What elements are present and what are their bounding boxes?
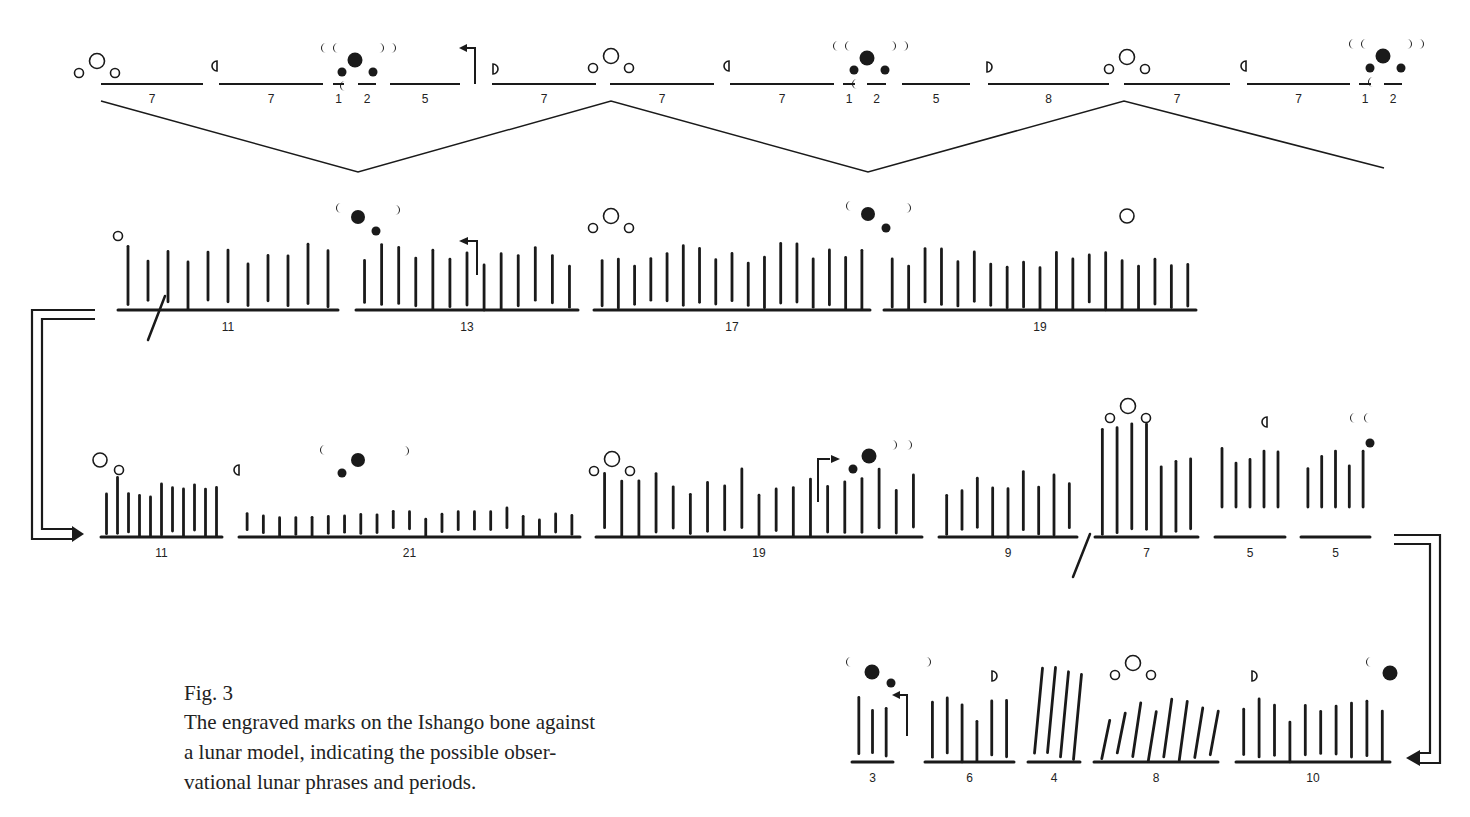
new-moon-icon (1383, 666, 1398, 681)
crescent-moon-icon (391, 43, 396, 53)
new-moon-icon (351, 210, 365, 224)
quarter-moon-icon (992, 671, 997, 681)
lunar-segment-label: 2 (873, 92, 880, 106)
crescent-moon-icon (1366, 657, 1371, 667)
bone-group-label: 10 (1306, 771, 1320, 785)
crescent-moon-icon (845, 41, 850, 51)
bone-group-label: 5 (1332, 546, 1339, 560)
crescent-moon-icon (1350, 413, 1355, 423)
lunar-segment-label: 1 (335, 92, 342, 106)
lunar-segment-label: 7 (1174, 92, 1181, 106)
crescent-moon-icon (320, 445, 325, 455)
crescent-moon-icon (1349, 39, 1354, 49)
dark-moon-icon (1397, 64, 1406, 73)
tally-mark (1048, 668, 1056, 753)
crescent-moon-icon (1361, 39, 1366, 49)
full-moon-icon (1106, 414, 1115, 423)
dark-moon-icon (372, 227, 381, 236)
dark-moon-icon (887, 679, 896, 688)
crescent-moon-icon (891, 41, 896, 51)
new-moon-icon (348, 53, 363, 68)
quarter-moon-icon (493, 64, 498, 74)
quarter-moon-icon (1252, 671, 1257, 681)
bone-group-label: 4 (1051, 771, 1058, 785)
crescent-moon-icon (379, 43, 384, 53)
quarter-moon-icon (1241, 61, 1246, 71)
crescent-moon-icon (333, 43, 338, 53)
tally-mark (1210, 711, 1218, 755)
crescent-moon-icon (907, 440, 912, 450)
crescent-moon-icon (321, 43, 326, 53)
figure-label: Fig. 3 (184, 680, 714, 707)
direction-arrow-icon (900, 695, 907, 736)
tally-mark (1179, 701, 1187, 760)
dark-moon-icon (1366, 439, 1375, 448)
full-moon-icon (626, 467, 635, 476)
tally-mark (1102, 720, 1110, 758)
lunar-segment-label: 8 (1045, 92, 1052, 106)
direction-arrow-icon (468, 241, 477, 275)
full-moon-icon (625, 224, 634, 233)
full-moon-icon (1141, 65, 1150, 74)
quarter-moon-icon (234, 465, 239, 475)
arrowhead-icon (831, 455, 840, 463)
arrowhead-icon (892, 691, 900, 699)
lunar-model-row: 7712577712587712 (75, 39, 1425, 172)
caption-line-3: vational lunar phrases and periods. (184, 767, 714, 797)
caption-line-2: a lunar model, indicating the possible o… (184, 737, 714, 767)
crescent-moon-icon (906, 203, 911, 213)
lunar-segment-label: 7 (659, 92, 666, 106)
full-moon-icon (114, 232, 123, 241)
break-mark (148, 296, 165, 340)
lunar-segment-label: 5 (933, 92, 940, 106)
zigzag-line (101, 101, 1384, 172)
arrowhead-icon (72, 526, 84, 542)
quarter-moon-icon (987, 62, 992, 72)
full-moon-icon (93, 453, 107, 467)
arrowhead-icon (1406, 750, 1420, 766)
tally-mark (1035, 668, 1043, 753)
new-moon-icon (861, 207, 875, 221)
full-moon-icon (1126, 656, 1141, 671)
lunar-segment-label: 2 (364, 92, 371, 106)
full-moon-icon (115, 466, 124, 475)
crescent-moon-icon (892, 440, 897, 450)
bone-group-label: 8 (1153, 771, 1160, 785)
dark-moon-icon (882, 224, 891, 233)
arrowhead-icon (459, 44, 467, 52)
new-moon-icon (865, 665, 880, 680)
tally-mark (1195, 708, 1203, 757)
crescent-moon-icon (1407, 39, 1412, 49)
tally-mark (1117, 713, 1125, 753)
dark-moon-icon (369, 68, 378, 77)
lunar-segment-label: 2 (1390, 92, 1397, 106)
full-moon-icon (590, 467, 599, 476)
tally-mark (1074, 674, 1082, 759)
quarter-moon-icon (1262, 417, 1267, 427)
crescent-moon-icon (395, 205, 400, 215)
crescent-moon-icon (926, 657, 931, 667)
lunar-segment-label: 5 (422, 92, 429, 106)
full-moon-icon (1121, 399, 1136, 414)
full-moon-icon (604, 49, 619, 64)
new-moon-icon (860, 51, 875, 66)
new-moon-icon (351, 453, 365, 467)
lunar-segment-label: 1 (846, 92, 853, 106)
full-moon-icon (1105, 65, 1114, 74)
bone-group-label: 11 (155, 546, 168, 560)
new-moon-icon (1376, 49, 1391, 64)
tally-mark (1061, 672, 1069, 757)
lunar-segment-label: 1 (1362, 92, 1369, 106)
crescent-moon-icon (1419, 39, 1424, 49)
bone-group-label: 7 (1143, 546, 1150, 560)
dark-moon-icon (1366, 64, 1375, 73)
bone-group-label: 17 (725, 320, 739, 334)
crescent-moon-icon (903, 41, 908, 51)
dark-moon-icon (881, 66, 890, 75)
full-moon-icon (589, 64, 598, 73)
crescent-moon-icon (846, 201, 851, 211)
connector-arrow-right-inner (1394, 544, 1430, 753)
full-moon-icon (604, 209, 619, 224)
dark-moon-icon (338, 469, 347, 478)
full-moon-icon (111, 69, 120, 78)
